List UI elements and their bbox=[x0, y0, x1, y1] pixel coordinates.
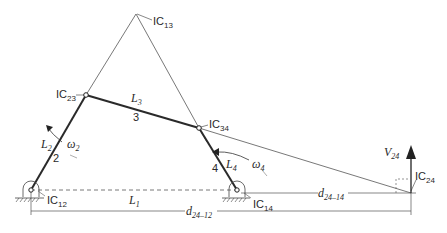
label-link-4: 4 bbox=[212, 162, 218, 174]
label-link-3: 3 bbox=[133, 111, 139, 123]
ground-pivot-ic12-icon bbox=[15, 181, 45, 202]
label-d24-12: d24–12 bbox=[186, 204, 212, 220]
label-ic23: IC23 bbox=[56, 88, 76, 103]
label-omega2: ω2 bbox=[67, 137, 79, 153]
link-2 bbox=[31, 95, 86, 190]
ic24-dashed-marker bbox=[396, 179, 409, 193]
label-d24-14: d24–14 bbox=[318, 186, 344, 202]
label-ic13: IC13 bbox=[153, 15, 173, 30]
construction-line-ic23-ic13 bbox=[86, 14, 136, 95]
link-3 bbox=[86, 95, 199, 128]
construction-line-ic13-ic34 bbox=[136, 14, 199, 128]
label-link-2: 2 bbox=[53, 152, 59, 164]
label-L1: L1 bbox=[128, 193, 140, 209]
joint-ic23 bbox=[84, 93, 89, 98]
label-ic24: IC24 bbox=[415, 170, 435, 185]
v24-arrowhead-icon bbox=[406, 145, 416, 159]
label-v24: V24 bbox=[384, 145, 399, 161]
linkage-diagram: IC13 IC23 IC34 IC12 IC14 IC24 L1 L2 L3 L… bbox=[0, 0, 447, 233]
label-L2: L2 bbox=[40, 137, 52, 153]
diagram-svg: IC13 IC23 IC34 IC12 IC14 IC24 L1 L2 L3 L… bbox=[0, 0, 447, 233]
label-L4: L4 bbox=[225, 157, 237, 173]
joint-ic34 bbox=[197, 126, 202, 131]
ground-pivot-ic14-icon bbox=[222, 181, 251, 202]
label-ic34: IC34 bbox=[209, 118, 229, 133]
label-L3: L3 bbox=[130, 91, 142, 107]
label-omega4: ω4 bbox=[252, 157, 264, 173]
label-ic12: IC12 bbox=[47, 194, 67, 209]
ic34-leader bbox=[201, 125, 208, 127]
